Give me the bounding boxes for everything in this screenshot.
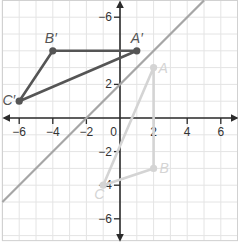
x-tick-label: −6	[12, 125, 26, 139]
original-vertex-label: C	[94, 186, 105, 202]
y-tick-label: −2	[98, 145, 112, 159]
image-vertex-point	[16, 98, 23, 105]
image-triangle-outline	[19, 51, 137, 101]
x-tick-label: 4	[184, 125, 191, 139]
y-tick-label: 2	[105, 77, 112, 91]
origin-label: 0	[110, 125, 117, 139]
coordinate-plane: −6−4−2246−62−2−4−60 ABC A′B′C′	[0, 0, 238, 247]
x-tick-label: −4	[46, 125, 60, 139]
original-vertex-point	[150, 165, 157, 172]
x-tick-label: 6	[217, 125, 224, 139]
image-vertex-label: C′	[2, 92, 16, 108]
y-tick-label: −6	[98, 212, 112, 226]
image-vertex-label: A′	[130, 30, 144, 46]
image-vertex-label: B′	[45, 30, 58, 46]
original-vertex-point	[150, 64, 157, 71]
axes	[4, 2, 236, 239]
image-vertex-point	[133, 47, 140, 54]
y-tick-label: −6	[98, 10, 112, 24]
image-vertex-point	[49, 47, 56, 54]
x-tick-label: −2	[80, 125, 94, 139]
original-vertex-label: B	[160, 160, 169, 176]
image-triangle: A′B′C′	[2, 30, 144, 108]
original-vertex-label: A	[158, 60, 168, 76]
